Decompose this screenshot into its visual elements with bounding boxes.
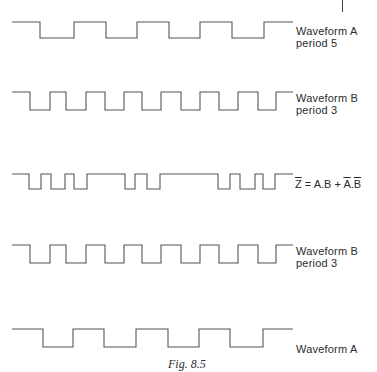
equals-sign: = [305,178,311,190]
z-formula: Z = A.B + A.B [295,178,361,190]
term-ab: A.B [314,178,332,190]
waveform-b-1-trace [12,92,293,110]
waveform-b-2-label: Waveform B period 3 [296,245,358,269]
waveform-a-top-title: Waveform A [296,25,358,37]
waveform-a-top-label: Waveform A period 5 [296,25,358,49]
waveform-a-top-trace [12,22,293,38]
waveform-a-bottom-title: Waveform A [296,343,358,355]
waveform-a-bottom-trace [12,329,293,347]
waveform-b-2-trace [12,245,293,263]
a-bar: A [343,178,350,190]
figure-caption: Fig. 8.5 [168,357,206,372]
waveform-b-1-period: period 3 [296,104,358,116]
waveform-z-trace [12,174,293,189]
waveform-b-2-title: Waveform B [296,245,358,257]
waveform-b-2-period: period 3 [296,257,358,269]
z-bar: Z [295,178,302,190]
waveform-a-bottom-label: Waveform A [296,343,358,355]
waveform-b-1-title: Waveform B [296,92,358,104]
waveform-a-top-period: period 5 [296,37,358,49]
b-bar: B [354,178,361,190]
plus-sign: + [334,178,340,190]
waveform-b-1-label: Waveform B period 3 [296,92,358,116]
